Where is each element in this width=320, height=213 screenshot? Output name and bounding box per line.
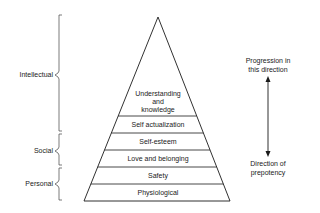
bracket-social [55,134,62,165]
progression-label-line2: this direction [238,66,298,75]
level-self-actualization: Self actualization [108,121,208,129]
level-physiological: Physiological [108,189,208,197]
level-understanding-line1: Understanding [118,90,198,98]
group-personal: Personal [25,180,53,188]
level-understanding-line3: knowledge [118,106,198,114]
group-social: Social [34,147,53,155]
bracket-intellectual [55,15,62,131]
arrow-down-head [266,151,271,157]
arrow-up-head [266,76,271,82]
level-safety: Safety [108,172,208,180]
level-love-belonging: Love and belonging [108,155,208,163]
level-self-esteem: Self-esteem [108,138,208,146]
progression-label-line1: Progression in [238,57,298,66]
group-intellectual: Intellectual [20,71,53,79]
prepotency-label-line1: Direction of [238,160,298,169]
bracket-personal [55,168,62,200]
prepotency-label-line2: prepotency [238,169,298,178]
level-understanding-line2: and [118,98,198,106]
